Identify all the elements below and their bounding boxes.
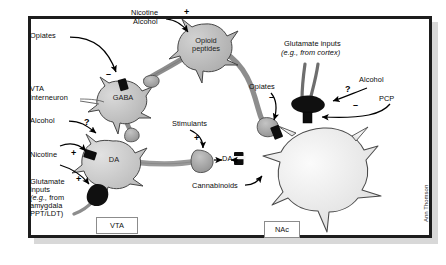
opioid-terminal-on-gaba xyxy=(144,75,160,87)
sign-minus-opiates-vta: – xyxy=(106,70,111,79)
cell-label-opioid-peptides: Opioid peptides xyxy=(185,37,227,54)
label-cannabinoids: Cannabinoids xyxy=(192,182,238,191)
gaba-terminal-bouton xyxy=(125,128,140,142)
cell-nac-neuron xyxy=(263,126,381,232)
gaba-dendrite-left xyxy=(80,101,99,104)
da-soma xyxy=(72,134,147,199)
region-box-nac: NAc xyxy=(264,221,300,238)
glutamate-cortex-fiber-b xyxy=(310,64,318,100)
da-terminal-bouton xyxy=(191,150,213,173)
glutamate-cortex-terminal xyxy=(291,96,325,113)
label-vta-interneuron-line2: interneuron xyxy=(30,94,68,103)
glutamate-cortex-fiber-a xyxy=(302,64,305,100)
label-pcp: PCP xyxy=(379,95,394,104)
opioid-label-line2: peptides xyxy=(192,44,220,53)
label-opiates-vta: Opiates xyxy=(30,32,56,41)
region-box-vta: VTA xyxy=(96,217,138,234)
sign-question-alcohol-nac: ? xyxy=(345,85,351,94)
label-alcohol-right: Alcohol xyxy=(359,76,384,85)
receptor-da-on-nac xyxy=(232,152,246,165)
sign-minus-pcp: – xyxy=(353,101,358,110)
cell-label-gaba: GABA xyxy=(107,94,139,102)
label-da-synapse: DA xyxy=(222,155,232,164)
label-stimulants: Stimulants xyxy=(172,120,207,129)
label-alcohol-top: Alcohol xyxy=(133,18,158,27)
label-glutamate-vta-line5: PPT/LDT) xyxy=(30,210,63,219)
sign-plus-glutamate-vta: + xyxy=(76,175,81,184)
nac-dendrite-upper-right xyxy=(352,127,368,141)
arrow-alcohol-to-vta xyxy=(69,121,96,133)
cell-label-da: DA xyxy=(103,156,125,164)
sign-minus-opiates-nac: – xyxy=(269,93,274,102)
label-glutamate-cortex-line2: (e.g., from cortex) xyxy=(281,49,340,58)
cell-gaba-interneuron xyxy=(80,77,152,134)
arrow-opiates-to-gaba xyxy=(70,37,116,72)
figure-stage: Opioid peptides GABA DA Opiates Nicotine… xyxy=(0,0,446,265)
label-nicotine-left: Nicotine xyxy=(30,151,57,160)
glutamate-vta-terminal xyxy=(87,184,109,206)
sign-plus-stimulants: + xyxy=(194,134,199,143)
nac-soma xyxy=(263,128,381,232)
sign-plus-nicotine-alcohol: + xyxy=(184,8,189,17)
glutamate-cortex-receptor xyxy=(303,112,312,123)
sign-plus-nicotine-da: + xyxy=(71,149,76,158)
label-opiates-nac: Opiates xyxy=(249,83,275,92)
cell-da-neuron xyxy=(72,134,147,199)
label-alcohol-left: Alcohol xyxy=(30,117,55,126)
arrow-cannabinoids-to-nac xyxy=(245,176,262,185)
artist-credit: Ann Thomson xyxy=(423,185,429,222)
sign-question-alcohol-vta: ? xyxy=(84,118,90,127)
